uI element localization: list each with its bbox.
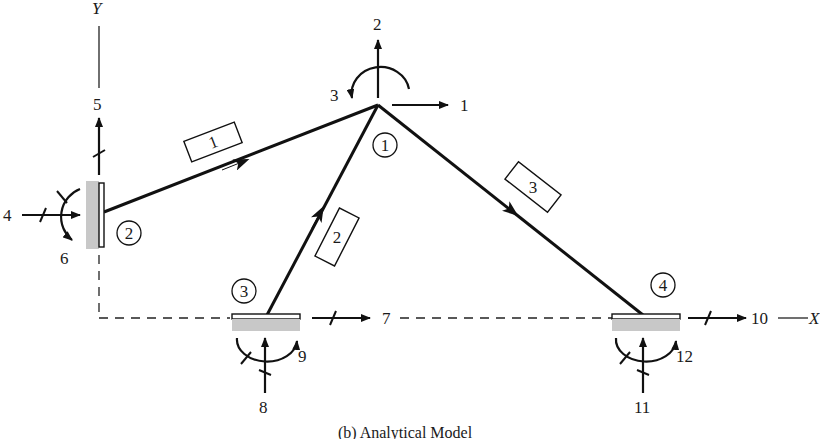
analytical-model-diagram: Y X 1 2 3 1 1 2 3 [0, 0, 820, 439]
joint-3-support-plate [232, 314, 300, 319]
joint-2-support-plate [99, 183, 104, 247]
joint-2-label: 2 [125, 224, 134, 243]
dof-11-label: 11 [634, 398, 650, 417]
dof-6-restraint-tick [57, 191, 67, 203]
joint-4-support-plate [612, 314, 680, 319]
dof-5-label: 5 [93, 95, 102, 114]
joint-4-support-hatch [612, 319, 680, 331]
joint-3-label: 3 [240, 282, 249, 301]
dof-3-label: 3 [330, 86, 339, 105]
dof-12-label: 12 [676, 347, 693, 366]
dof-2-label: 2 [373, 15, 382, 34]
joint-3: 3 7 8 9 [232, 279, 391, 417]
member-3-label: 3 [529, 178, 538, 197]
joint-4: 4 10 11 12 [612, 273, 768, 417]
x-axis-label: X [808, 309, 820, 328]
dof-6-label: 6 [60, 249, 69, 268]
joint-2-support-hatch [86, 181, 99, 249]
dof-8-label: 8 [259, 398, 268, 417]
joint-2: 2 4 5 6 [3, 95, 141, 268]
member-3: 3 [378, 105, 643, 315]
member-1: 1 [104, 105, 378, 212]
joint-4-label: 4 [659, 276, 668, 295]
member-2-label: 2 [333, 228, 342, 247]
dof-3-rotation-arrow [352, 67, 409, 98]
dof-10-label: 10 [751, 309, 768, 328]
global-axes: Y X [92, 0, 820, 328]
dof-9-label: 9 [298, 347, 307, 366]
y-axis-label: Y [92, 0, 103, 18]
figure-caption: (b) Analytical Model [338, 424, 473, 439]
member-2: 2 [267, 105, 378, 315]
dof-4-label: 4 [3, 206, 12, 225]
joint-3-support-hatch [232, 319, 300, 331]
dof-7-label: 7 [382, 309, 391, 328]
joint-1: 1 1 2 3 [330, 15, 469, 157]
joint-1-label: 1 [381, 136, 390, 155]
dof-1-label: 1 [460, 96, 469, 115]
